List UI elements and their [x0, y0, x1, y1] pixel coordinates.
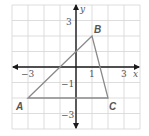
tick-x-neg3: −3 — [21, 69, 35, 79]
tick-x-3: 3 — [121, 69, 127, 79]
tick-y-neg3: −3 — [61, 110, 75, 120]
tick-y-3: 3 — [66, 17, 72, 27]
coordinate-plane: −3 1 3 3 −1 −3 x y A B C — [0, 0, 149, 136]
point-label-c: C — [109, 101, 117, 112]
tick-x-1: 1 — [89, 69, 95, 79]
point-label-a: A — [15, 101, 23, 112]
point-label-b: B — [94, 24, 101, 35]
x-axis-label: x — [133, 69, 138, 79]
tick-y-neg1: −1 — [61, 79, 74, 89]
y-axis-label: y — [79, 4, 86, 14]
